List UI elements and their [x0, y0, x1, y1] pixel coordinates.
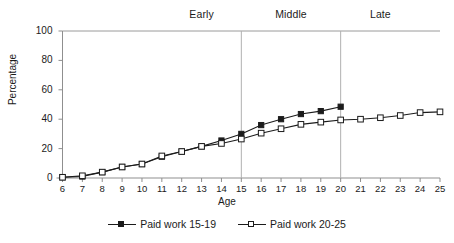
open-square-marker-icon — [318, 119, 324, 125]
filled-square-marker-icon — [278, 117, 283, 122]
x-tick-label: 23 — [391, 183, 409, 194]
y-tick-label: 0 — [27, 172, 53, 183]
x-tick-label: 12 — [173, 183, 191, 194]
legend-label: Paid work 20-25 — [270, 218, 346, 230]
plot-area — [0, 0, 454, 243]
open-square-marker-icon — [60, 174, 66, 180]
open-square-marker-icon — [258, 130, 264, 136]
x-tick-label: 20 — [332, 183, 350, 194]
x-tick-label: 16 — [252, 183, 270, 194]
filled-square-marker-icon — [239, 131, 244, 136]
y-tick-label: 40 — [27, 113, 53, 124]
open-square-marker-icon — [338, 117, 344, 123]
open-square-marker-icon — [298, 122, 304, 128]
open-square-marker-icon — [278, 126, 284, 132]
x-tick-label: 8 — [93, 183, 111, 194]
x-tick-label: 10 — [133, 183, 151, 194]
x-tick-label: 9 — [113, 183, 131, 194]
x-tick-label: 18 — [292, 183, 310, 194]
x-tick-label: 24 — [411, 183, 429, 194]
filled-square-marker-icon — [318, 109, 323, 114]
open-square-marker-icon — [119, 164, 125, 170]
filled-square-marker-icon — [108, 220, 136, 229]
chart-figure: Early Middle Late Percentage Age 0204060… — [0, 0, 454, 243]
open-square-marker-icon — [80, 173, 86, 179]
x-tick-label: 19 — [312, 183, 330, 194]
open-square-marker-icon — [139, 161, 145, 167]
y-tick-label: 100 — [27, 25, 53, 36]
series-paid-work-20-25 — [60, 109, 443, 180]
legend-label: Paid work 15-19 — [140, 218, 216, 230]
x-tick-label: 17 — [272, 183, 290, 194]
legend-item-paid-work-20-25: Paid work 20-25 — [238, 218, 346, 230]
open-square-marker-icon — [378, 115, 384, 121]
open-square-marker-icon — [358, 116, 364, 122]
filled-square-marker-icon — [259, 122, 264, 127]
x-tick-label: 14 — [212, 183, 230, 194]
filled-square-marker-icon — [298, 111, 303, 116]
chart-legend: Paid work 15-19 Paid work 20-25 — [0, 218, 454, 230]
y-tick-label: 60 — [27, 84, 53, 95]
x-tick-label: 25 — [431, 183, 449, 194]
open-square-marker-icon — [437, 109, 443, 115]
x-tick-label: 6 — [54, 183, 72, 194]
filled-square-marker-icon — [338, 104, 343, 109]
x-tick-label: 13 — [193, 183, 211, 194]
y-tick-label: 20 — [27, 143, 53, 154]
x-tick-label: 7 — [73, 183, 91, 194]
legend-item-paid-work-15-19: Paid work 15-19 — [108, 218, 216, 230]
open-square-marker-icon — [417, 110, 423, 116]
open-square-marker-icon — [159, 153, 165, 159]
x-tick-label: 15 — [232, 183, 250, 194]
open-square-marker-icon — [199, 144, 205, 150]
open-square-marker-icon — [238, 220, 266, 229]
x-tick-label: 21 — [352, 183, 370, 194]
series-paid-work-15-19 — [60, 104, 343, 180]
x-tick-label: 22 — [371, 183, 389, 194]
open-square-marker-icon — [219, 141, 225, 147]
open-square-marker-icon — [99, 169, 105, 175]
x-tick-label: 11 — [153, 183, 171, 194]
open-square-marker-icon — [239, 136, 245, 142]
open-square-marker-icon — [179, 149, 185, 155]
open-square-marker-icon — [397, 113, 403, 119]
y-tick-label: 80 — [27, 54, 53, 65]
